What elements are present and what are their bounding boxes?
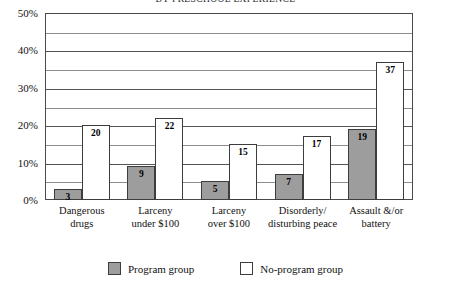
bar-program-group: 7 xyxy=(275,174,303,200)
bar-no-program-group: 20 xyxy=(82,125,110,200)
x-axis-category-label: Assault &/orbattery xyxy=(333,205,419,230)
bar-no-program-group: 22 xyxy=(155,118,183,200)
y-axis-tick-label: 0% xyxy=(0,194,38,206)
bar-no-program-group: 17 xyxy=(303,136,331,200)
bar-value-label: 3 xyxy=(55,192,81,202)
bar-value-label: 5 xyxy=(202,184,228,194)
y-axis-tick-label: 30% xyxy=(0,82,38,94)
bars-layer: 3209225157171937 xyxy=(45,13,413,200)
bar-program-group: 9 xyxy=(127,166,155,200)
bar-value-label: 20 xyxy=(83,128,109,138)
bar-value-label: 15 xyxy=(230,147,256,157)
legend-item: Program group xyxy=(108,262,194,275)
bar-value-label: 22 xyxy=(156,121,182,131)
bar-program-group: 5 xyxy=(201,181,229,200)
x-axis-label-line: Assault &/or xyxy=(333,205,419,218)
bar-program-group: 3 xyxy=(54,189,82,200)
y-axis-tick-label: 20% xyxy=(0,119,38,131)
bar-value-label: 19 xyxy=(349,132,375,142)
bar-value-label: 9 xyxy=(128,169,154,179)
chart-legend: Program groupNo-program group xyxy=(0,262,451,275)
y-axis-tick-label: 10% xyxy=(0,157,38,169)
bar-value-label: 37 xyxy=(377,65,403,75)
bar-value-label: 17 xyxy=(304,139,330,149)
legend-swatch-program xyxy=(108,262,121,275)
legend-label: Program group xyxy=(128,263,194,275)
legend-item: No-program group xyxy=(240,262,343,275)
bar-no-program-group: 15 xyxy=(229,144,257,200)
bar-value-label: 7 xyxy=(276,177,302,187)
legend-label: No-program group xyxy=(260,263,343,275)
bar-program-group: 19 xyxy=(348,129,376,200)
y-axis-tick-label: 40% xyxy=(0,44,38,56)
legend-swatch-noprogram xyxy=(240,262,253,275)
x-axis-label-line: battery xyxy=(333,218,419,231)
y-axis-tick-label: 50% xyxy=(0,7,38,19)
chart-title: BY PRESCHOOL EXPERIENCE xyxy=(0,0,451,3)
bar-no-program-group: 37 xyxy=(376,62,404,200)
bar-chart: BY PRESCHOOL EXPERIENCE 0%10%20%30%40%50… xyxy=(0,0,451,294)
